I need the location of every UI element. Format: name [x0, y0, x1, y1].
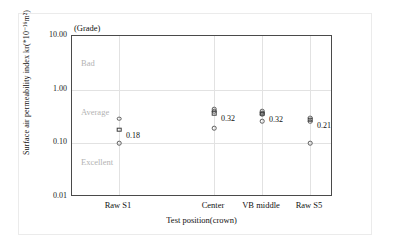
- y-axis-title: Surface air permeability index kr(*10⁻¹⁶…: [22, 0, 31, 173]
- y-axis-tick-label: 10.00: [33, 31, 67, 39]
- data-point-open-square: [212, 111, 217, 116]
- y-axis-tick-labels: 10.001.000.100.01: [31, 35, 67, 196]
- data-point-open-square: [117, 127, 122, 132]
- y-axis-tick-label: 0.10: [33, 138, 67, 146]
- grade-band-label-excellent: Excellent: [81, 157, 113, 167]
- data-point-value-label: 0.32: [269, 114, 283, 123]
- data-point-open-circle: [117, 116, 122, 121]
- x-axis-tick-label: Raw S1: [105, 200, 132, 210]
- gridline-horizontal: [72, 90, 331, 91]
- plot-area: BadAverageExcellent0.180.320.320.21: [71, 35, 332, 196]
- data-point-open-square: [260, 112, 265, 117]
- y-axis-tick-label: 0.01: [33, 192, 67, 200]
- data-point-open-circle: [212, 126, 217, 131]
- data-point-value-label: 0.21: [317, 120, 331, 129]
- grade-band-label-bad: Bad: [81, 58, 95, 68]
- data-point-open-circle: [117, 141, 122, 146]
- data-point-open-square: [308, 117, 313, 122]
- y-axis-tick-label: 1.00: [33, 85, 67, 93]
- chart-figure: (Grade) Surface air permeability index k…: [0, 0, 394, 252]
- data-point-open-circle: [260, 119, 265, 124]
- gridline-horizontal: [72, 143, 331, 144]
- x-axis-tick-label: Raw S5: [296, 200, 323, 210]
- x-axis-tick-label: VB middle: [242, 200, 280, 210]
- data-point-open-circle: [308, 141, 313, 146]
- x-axis-title: Test position(crown): [71, 215, 332, 225]
- grade-caption: (Grade): [74, 23, 100, 33]
- grade-band-label-average: Average: [81, 107, 109, 117]
- x-axis-tick-label: Center: [202, 200, 225, 210]
- data-point-value-label: 0.18: [126, 130, 140, 139]
- data-point-value-label: 0.32: [221, 114, 235, 123]
